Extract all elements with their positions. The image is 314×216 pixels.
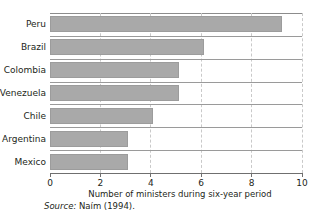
row-separator-colombia [50, 82, 302, 83]
source-text: Naím (1994). [76, 201, 135, 211]
x-axis-label: Number of ministers during six-year peri… [0, 189, 314, 199]
x-tick-4 [150, 173, 151, 177]
category-label-chile: Chile [23, 111, 46, 121]
x-tick-10 [302, 173, 303, 177]
row-separator-peru [50, 36, 302, 37]
x-tick-8 [251, 173, 252, 177]
x-tick-label-4: 4 [136, 178, 166, 188]
category-label-mexico: Mexico [15, 157, 46, 167]
bar-mexico [50, 154, 128, 170]
figure-bar-chart: PeruBrazilColombiaVenezuelaChileArgentin… [0, 0, 314, 216]
bar-argentina [50, 131, 128, 147]
bar-venezuela [50, 85, 179, 101]
row-separator-venezuela [50, 104, 302, 105]
x-axis-line [50, 173, 302, 174]
bar-colombia [50, 62, 179, 78]
gridline-x-10 [302, 13, 304, 173]
category-label-argentina: Argentina [2, 134, 46, 144]
x-tick-label-6: 6 [186, 178, 216, 188]
source-label: Source: [44, 201, 76, 211]
gridline-x-8 [251, 13, 253, 173]
category-label-colombia: Colombia [4, 65, 46, 75]
bar-chile [50, 108, 153, 124]
row-separator-chile [50, 127, 302, 128]
x-tick-6 [201, 173, 202, 177]
x-tick-label-10: 10 [287, 178, 314, 188]
x-tick-label-2: 2 [85, 178, 115, 188]
bar-brazil [50, 39, 204, 55]
x-tick-0 [50, 173, 51, 177]
row-separator-brazil [50, 59, 302, 60]
category-label-venezuela: Venezuela [0, 88, 46, 98]
gridline-x-6 [201, 13, 203, 173]
category-label-brazil: Brazil [21, 42, 46, 52]
plot-top-rule [50, 13, 302, 14]
x-tick-label-0: 0 [35, 178, 65, 188]
source-note: Source: Naím (1994). [44, 201, 135, 211]
bar-peru [50, 16, 282, 32]
category-label-peru: Peru [26, 19, 46, 29]
x-tick-2 [100, 173, 101, 177]
x-tick-label-8: 8 [237, 178, 267, 188]
row-separator-argentina [50, 150, 302, 151]
